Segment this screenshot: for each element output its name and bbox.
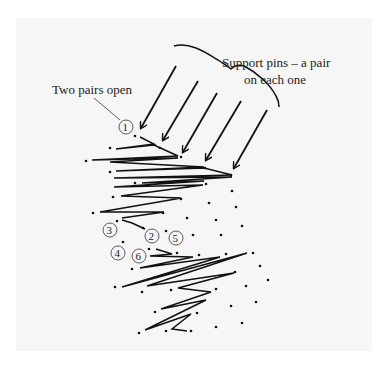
two-pairs-open-label: Two pairs open (52, 82, 132, 97)
step-marker-2: 2 (145, 229, 159, 243)
svg-text:1: 1 (123, 121, 129, 133)
step-marker-3: 3 (103, 223, 117, 237)
leader-line (94, 98, 120, 120)
step-marker-5: 5 (169, 231, 183, 245)
svg-text:4: 4 (115, 247, 121, 259)
step-marker-6: 6 (132, 249, 146, 263)
svg-text:6: 6 (136, 250, 142, 262)
lace-pin-diagram: Support pins – a pair on each one Two pa… (0, 0, 391, 370)
svg-text:5: 5 (173, 232, 179, 244)
support-pins-label-line1: Support pins – a pair (222, 55, 331, 70)
svg-text:3: 3 (107, 224, 113, 236)
svg-text:2: 2 (149, 230, 155, 242)
step-marker-1: 1 (119, 120, 133, 134)
step-marker-4: 4 (111, 246, 125, 260)
support-pins-label-line2: on each one (244, 72, 306, 87)
